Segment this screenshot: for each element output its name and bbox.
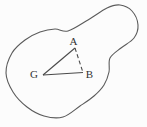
label-B: B (86, 68, 93, 80)
label-A: A (70, 35, 78, 47)
segment-G-B (43, 73, 83, 76)
label-G: G (30, 68, 38, 80)
geometry-figure: A B G (0, 0, 147, 127)
segment-G-A (43, 48, 75, 75)
segment-A-B (75, 48, 83, 73)
region-outline (6, 5, 138, 118)
